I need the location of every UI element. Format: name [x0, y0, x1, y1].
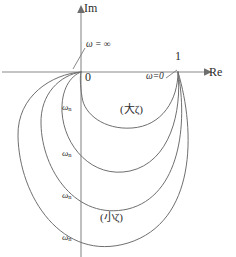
real-axis-label: Re: [209, 66, 222, 78]
origin-label: 0: [85, 71, 91, 83]
omega-zero-label: ω=0: [146, 72, 164, 82]
omega-n-subscript-4: n: [68, 235, 71, 242]
nyquist-figure: Im Re 0 1 ω = ∞ ω=0 ωn ωn ωn ωn (大ζ) (小ζ…: [0, 0, 236, 257]
omega-infinity-label: ω = ∞: [86, 40, 111, 50]
small-zeta-annotation: (小ζ): [100, 212, 123, 223]
omega-zero-leader-line: [166, 70, 177, 78]
omega-n-subscript-2: n: [68, 151, 71, 158]
omega-n-label-3: ωn: [62, 191, 72, 201]
large-zeta-annotation: (大ζ): [120, 104, 143, 115]
unit-tick-label: 1: [175, 50, 181, 62]
omega-n-label-1: ωn: [62, 103, 72, 113]
nyquist-curve-mid-1: [62, 72, 179, 172]
omega-infinity-leader-line: [73, 48, 85, 69]
omega-n-label-2: ωn: [62, 149, 72, 159]
omega-n-subscript-3: n: [68, 193, 71, 200]
omega-n-label-4: ωn: [62, 233, 72, 243]
imaginary-axis-label: Im: [84, 2, 97, 14]
omega-n-subscript-1: n: [68, 105, 71, 112]
